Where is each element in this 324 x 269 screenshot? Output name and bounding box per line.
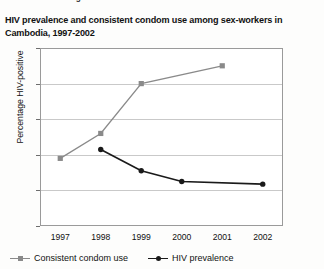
series-marker-circle	[179, 179, 184, 184]
preceding-paragraph-cutoff: condom use among sex-workers and their c…	[4, 0, 296, 9]
source-citation-container: SS, 1998-2002 Cambodia BSS, 1997-2002 Ci…	[312, 4, 324, 269]
page-root: condom use among sex-workers and their c…	[0, 0, 324, 269]
chart-legend: Consistent condom useHIV prevalence	[10, 253, 234, 263]
chart-title: HIV prevalence and consistent condom use…	[5, 14, 293, 39]
legend-swatch	[148, 254, 168, 263]
series-layer	[0, 40, 292, 269]
legend-item[interactable]: Consistent condom use	[10, 253, 128, 263]
legend-marker-square	[18, 256, 23, 261]
series-marker-square	[98, 131, 103, 136]
legend-label: Consistent condom use	[34, 253, 128, 263]
series-marker-circle	[260, 181, 265, 186]
series-marker-square	[139, 81, 144, 86]
legend-swatch	[10, 254, 30, 263]
line-chart: 020406080100 Percentage HIV-positive 199…	[0, 40, 292, 269]
series-marker-square	[58, 156, 63, 161]
series-marker-circle	[139, 168, 144, 173]
legend-item[interactable]: HIV prevalence	[148, 253, 234, 263]
legend-label: HIV prevalence	[172, 253, 234, 263]
series-marker-circle	[98, 147, 103, 152]
series-marker-square	[220, 63, 225, 68]
source-citation: SS, 1998-2002 Cambodia BSS, 1997-2002 Ci…	[313, 265, 323, 269]
series-line	[60, 66, 222, 159]
preceding-paragraph-text: condom use among sex-workers and their c…	[4, 0, 296, 3]
legend-marker-circle	[156, 256, 161, 261]
